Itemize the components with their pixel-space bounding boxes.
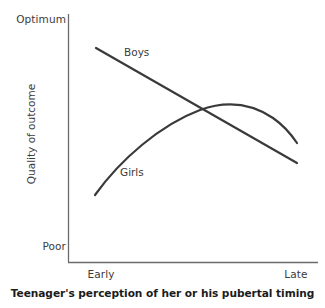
chart-plot-area — [0, 0, 325, 308]
x-axis-title: Teenager's perception of her or his pube… — [0, 287, 325, 299]
y-axis-title: Quality of outcome — [25, 59, 37, 209]
chart-figure: Optimum Poor Quality of outcome Early La… — [0, 0, 325, 308]
x-axis-tick-late: Late — [274, 268, 318, 280]
series-curve-girls — [95, 104, 297, 195]
series-line-boys — [96, 48, 297, 163]
y-axis-tick-optimum: Optimum — [8, 13, 66, 25]
series-label-boys: Boys — [124, 46, 149, 58]
series-label-girls: Girls — [120, 166, 144, 178]
y-axis-tick-poor: Poor — [8, 240, 66, 252]
x-axis-tick-early: Early — [78, 268, 124, 280]
